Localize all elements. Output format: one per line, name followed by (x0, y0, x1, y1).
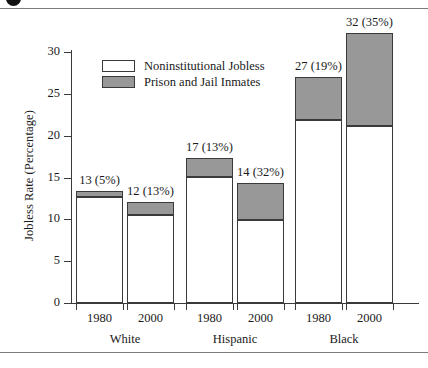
bar-segment-noninstitutional-jobless (295, 120, 342, 303)
y-tick-0: 0 (64, 303, 72, 304)
x-axis-year-label-black-2000: 2000 (346, 311, 393, 326)
y-tick-20: 20 (64, 136, 72, 137)
x-tick (237, 303, 238, 310)
x-axis-year-label-black-1980: 1980 (295, 311, 342, 326)
legend-label-noninstitutional-jobless: Noninstitutional Jobless (144, 59, 265, 74)
y-tick-label-5: 5 (54, 253, 60, 268)
y-tick-label-30: 30 (48, 44, 61, 59)
x-tick (123, 303, 124, 310)
bar-value-label-black-2000: 32 (35%) (332, 15, 407, 30)
y-tick-5: 5 (64, 261, 72, 262)
legend-swatch-icon-prison-and-jail-inmates (102, 76, 135, 88)
legend-swatch-icon-noninstitutional-jobless (102, 60, 135, 72)
bar-value-label-hispanic-1980: 17 (13%) (172, 140, 247, 155)
x-axis-year-label-hispanic-1980: 1980 (186, 311, 233, 326)
bar-segment-prison-and-jail-inmates (237, 183, 284, 221)
bar-segment-prison-and-jail-inmates (127, 202, 174, 215)
x-tick (76, 303, 77, 310)
y-tick-30: 30 (64, 52, 72, 53)
y-tick-label-15: 15 (48, 170, 61, 185)
bar-hispanic-1980[interactable] (186, 158, 233, 303)
legend-item-noninstitutional-jobless: Noninstitutional Jobless (102, 58, 265, 74)
y-tick-label-0: 0 (54, 295, 60, 310)
bar-segment-noninstitutional-jobless (76, 197, 123, 303)
y-axis-title: Jobless Rate (Percentage) (22, 51, 37, 301)
bar-segment-prison-and-jail-inmates (295, 77, 342, 120)
x-axis-group-label-hispanic: Hispanic (186, 332, 284, 347)
x-tick (295, 303, 296, 310)
bar-black-1980[interactable] (295, 77, 342, 303)
bar-white-1980[interactable] (76, 191, 123, 303)
bar-value-label-black-1980: 27 (19%) (281, 59, 356, 74)
bar-value-label-hispanic-2000: 14 (32%) (223, 165, 298, 180)
y-tick-10: 10 (64, 219, 72, 220)
x-tick (393, 303, 394, 310)
y-tick-label-25: 25 (48, 86, 61, 101)
x-tick (346, 303, 347, 310)
x-axis-group-label-black: Black (295, 332, 393, 347)
bar-white-2000[interactable] (127, 202, 174, 303)
x-axis-year-label-white-1980: 1980 (76, 311, 123, 326)
chart-legend: Noninstitutional Jobless Prison and Jail… (102, 58, 265, 90)
bar-segment-noninstitutional-jobless (127, 215, 174, 303)
y-tick-label-10: 10 (48, 211, 61, 226)
bar-segment-prison-and-jail-inmates (346, 33, 393, 127)
bar-value-label-white-2000: 12 (13%) (113, 184, 188, 199)
bar-hispanic-2000[interactable] (237, 183, 284, 303)
x-axis-group-label-white: White (76, 332, 174, 347)
legend-label-prison-and-jail-inmates: Prison and Jail Inmates (144, 75, 260, 90)
y-tick-25: 25 (64, 94, 72, 95)
legend-item-prison-and-jail-inmates: Prison and Jail Inmates (102, 74, 265, 90)
x-tick (186, 303, 187, 310)
x-tick (284, 303, 285, 310)
x-tick (342, 303, 343, 310)
bar-segment-noninstitutional-jobless (346, 126, 393, 303)
x-axis-year-label-white-2000: 2000 (127, 311, 174, 326)
x-axis-year-label-hispanic-2000: 2000 (237, 311, 284, 326)
x-tick (233, 303, 234, 310)
x-tick (127, 303, 128, 310)
y-tick-label-20: 20 (48, 128, 61, 143)
figure-container: Jobless Rate (Percentage) 051015202530 1… (0, 0, 428, 368)
chart-plot-area: Jobless Rate (Percentage) 051015202530 1… (0, 0, 428, 368)
bar-segment-noninstitutional-jobless (237, 220, 284, 303)
x-tick (174, 303, 175, 310)
bar-segment-noninstitutional-jobless (186, 177, 233, 303)
